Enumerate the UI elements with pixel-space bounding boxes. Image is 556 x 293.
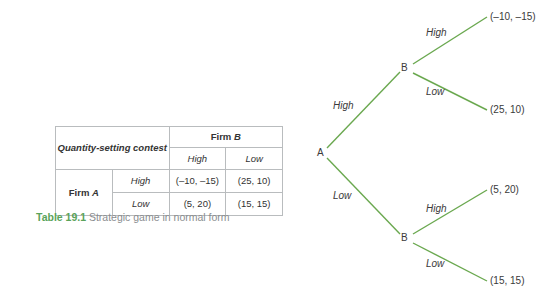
payoff-lower-high: (5, 20) — [490, 184, 519, 195]
node-b-lower-label: B — [401, 232, 408, 243]
game-tree-diagram: A B B High Low High Low High Low (–10, –… — [0, 0, 556, 293]
branch-label-a-low: Low — [333, 190, 351, 201]
payoff-upper-high: (–10, –15) — [490, 11, 536, 22]
payoff-lower-low: (15, 15) — [490, 275, 524, 286]
branch-label-b-lower-high: High — [426, 203, 447, 214]
branch-label-b-upper-high: High — [426, 27, 447, 38]
payoff-upper-low: (25, 10) — [490, 104, 524, 115]
branch-b-upper-high — [413, 17, 487, 64]
branch-b-lower-high — [413, 190, 487, 234]
node-b-upper-label: B — [401, 62, 408, 73]
branch-b-upper-low — [413, 73, 487, 110]
branch-label-b-lower-low: Low — [426, 258, 444, 269]
branch-label-b-upper-low: Low — [426, 86, 444, 97]
game-tree-svg — [0, 0, 556, 293]
node-a-label: A — [317, 147, 324, 158]
branch-label-a-high: High — [333, 100, 354, 111]
branch-b-lower-low — [413, 243, 487, 281]
